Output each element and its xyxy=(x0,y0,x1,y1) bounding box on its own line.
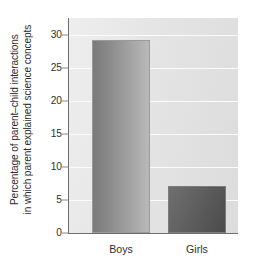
y-tick-mark-10 xyxy=(62,166,68,167)
y-axis-title-line-1: Percentage of parent–child interactions xyxy=(9,25,22,215)
y-axis-tick-labels: 051015202530 xyxy=(44,0,64,273)
y-tick-mark-20 xyxy=(62,100,68,101)
y-tick-label-25: 25 xyxy=(51,63,62,73)
x-category-label-girls: Girls xyxy=(186,243,208,255)
gridline-30 xyxy=(69,35,238,36)
y-tick-label-20: 20 xyxy=(51,96,62,106)
y-tick-label-30: 30 xyxy=(51,30,62,40)
y-tick-mark-30 xyxy=(62,34,68,35)
y-tick-mark-0 xyxy=(62,233,68,234)
y-tick-mark-25 xyxy=(62,67,68,68)
y-tick-mark-5 xyxy=(62,199,68,200)
y-tick-label-10: 10 xyxy=(51,162,62,172)
bar-chart-figure: Percentage of parent–child interactions … xyxy=(0,0,259,273)
x-axis-line xyxy=(68,233,238,234)
x-category-label-boys: Boys xyxy=(109,243,133,255)
y-axis-title: Percentage of parent–child interactions … xyxy=(0,0,44,240)
y-axis-title-text: Percentage of parent–child interactions … xyxy=(9,25,34,215)
y-tick-label-15: 15 xyxy=(51,129,62,139)
y-axis-title-line-2: in which parent explained science concep… xyxy=(22,25,35,215)
y-tick-mark-15 xyxy=(62,133,68,134)
bar-girls[interactable] xyxy=(168,186,226,233)
bar-boys[interactable] xyxy=(92,40,150,233)
plot-area xyxy=(69,18,238,233)
